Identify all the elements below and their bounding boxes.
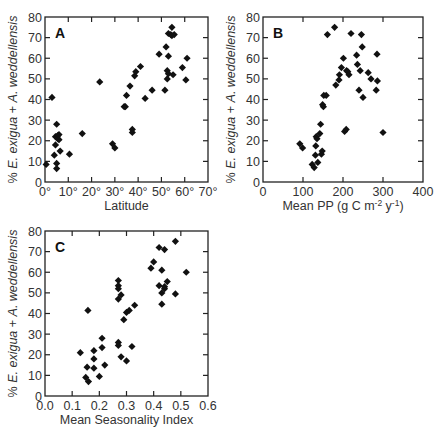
data-point	[79, 130, 86, 137]
data-point	[183, 269, 190, 276]
y-tick-label: 20	[28, 134, 42, 148]
y-tick-label: 60	[28, 52, 42, 66]
x-tick-label: 0.1	[63, 399, 80, 413]
y-tick-label: 40	[28, 93, 42, 107]
x-tick-label: 0	[260, 185, 267, 199]
data-points	[43, 24, 191, 172]
x-tick-label: 0.6	[199, 399, 216, 413]
panel-label: C	[55, 239, 65, 255]
data-point	[179, 64, 186, 71]
data-point	[98, 344, 105, 351]
data-point	[355, 87, 362, 94]
panel-c: 0.00.10.20.30.40.50.601020304050607080CM…	[6, 225, 217, 428]
data-point	[169, 71, 176, 78]
x-tick-label: 0.4	[145, 399, 162, 413]
data-point	[172, 238, 179, 245]
data-point	[123, 357, 130, 364]
data-point	[84, 364, 91, 371]
y-tick-label: 20	[246, 134, 260, 148]
data-point	[137, 63, 144, 70]
data-point	[57, 147, 64, 154]
data-point	[312, 142, 319, 149]
x-tick-label: 20°	[82, 185, 101, 199]
data-point	[150, 258, 157, 265]
data-point	[358, 31, 365, 38]
data-point	[98, 335, 105, 342]
data-point	[353, 52, 360, 59]
panel-label: B	[273, 25, 283, 41]
data-point	[126, 82, 133, 89]
data-point	[131, 302, 138, 309]
data-point	[90, 355, 97, 362]
data-points	[77, 238, 190, 385]
data-point	[183, 55, 190, 62]
y-tick-label: 0	[35, 176, 42, 190]
data-point	[128, 343, 135, 350]
data-point	[359, 43, 366, 50]
y-tick-label: 10	[28, 155, 42, 169]
data-point	[336, 71, 343, 78]
y-tick-label: 10	[246, 155, 260, 169]
y-tick-label: 70	[246, 31, 260, 45]
data-point	[53, 121, 60, 128]
data-point	[156, 51, 163, 58]
x-tick-label: 10°	[59, 185, 78, 199]
data-point	[142, 95, 149, 102]
x-tick-label: 30°	[105, 185, 124, 199]
x-axis-title: Mean PP (g C m-2 y-1)	[282, 198, 403, 213]
y-tick-label: 60	[246, 52, 260, 66]
data-point	[331, 24, 338, 31]
y-tick-label: 50	[246, 72, 260, 86]
y-tick-label: 0	[253, 176, 260, 190]
y-axis-title: % E. exigua + A. weddellensis	[6, 16, 20, 184]
data-point	[357, 67, 364, 74]
data-point	[367, 75, 374, 82]
y-tick-label: 50	[28, 72, 42, 86]
data-point	[373, 87, 380, 94]
data-point	[374, 77, 381, 84]
data-points	[296, 24, 386, 171]
data-point	[90, 365, 97, 372]
x-tick-label: 70°	[199, 185, 218, 199]
data-point	[90, 347, 97, 354]
y-tick-label: 0	[35, 390, 42, 404]
x-tick-label: 50°	[152, 185, 171, 199]
y-tick-label: 40	[28, 307, 42, 321]
data-point	[147, 265, 154, 272]
x-tick-label: 0.2	[91, 399, 108, 413]
y-axis-title: % E. exigua + A. weddellensis	[6, 230, 20, 398]
panel-a: 0°10°20°30°40°50°60°70°01020304050607080…	[6, 11, 217, 214]
data-point	[168, 24, 175, 31]
data-point	[182, 76, 189, 83]
y-axis-title: % E. exigua + A. weddellensis	[224, 16, 238, 184]
data-point	[347, 30, 354, 37]
data-point	[158, 301, 165, 308]
data-point	[373, 51, 380, 58]
x-tick-label: 400	[413, 185, 434, 199]
data-point	[340, 55, 347, 62]
data-point	[51, 152, 58, 159]
data-point	[52, 141, 59, 148]
x-tick-label: 200	[333, 185, 354, 199]
y-tick-label: 60	[28, 266, 42, 280]
data-point	[162, 43, 169, 50]
data-point	[354, 61, 361, 68]
panel-b: 010020030040001020304050607080BMean PP (…	[224, 11, 433, 214]
data-point	[77, 349, 84, 356]
data-point	[324, 31, 331, 38]
y-tick-label: 70	[28, 245, 42, 259]
panel-label: A	[55, 25, 65, 41]
x-tick-label: 300	[373, 185, 394, 199]
x-axis-title: Mean Seasonality Index	[60, 413, 194, 427]
data-point	[101, 361, 108, 368]
y-tick-label: 80	[28, 225, 42, 239]
y-tick-label: 30	[246, 114, 260, 128]
data-point	[312, 152, 319, 159]
data-point	[165, 53, 172, 60]
y-tick-label: 70	[28, 31, 42, 45]
x-tick-label: 40°	[129, 185, 148, 199]
data-point	[120, 316, 127, 323]
data-point	[66, 151, 73, 158]
y-tick-label: 80	[28, 11, 42, 25]
data-point	[359, 94, 366, 101]
